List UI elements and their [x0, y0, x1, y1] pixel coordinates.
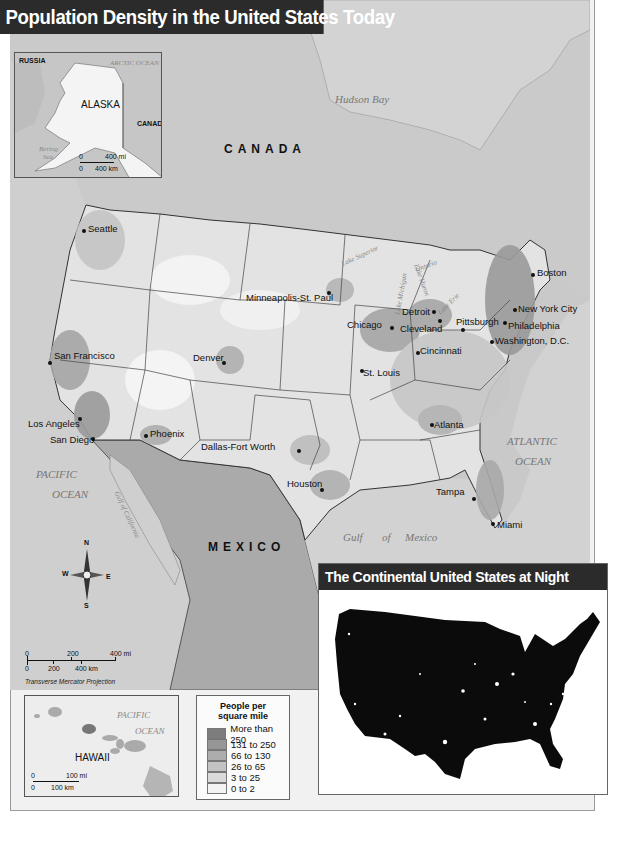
projection-label: Transverse Mercator Projection: [25, 678, 115, 685]
city-label-houston: Houston: [287, 478, 322, 489]
city-label-san-diego: San Diego: [50, 434, 94, 445]
water-label-pacific: PACIFIC: [36, 468, 77, 480]
city-dot-miami: [491, 522, 495, 526]
compass-n: N: [84, 539, 89, 546]
legend-label: 3 to 25: [231, 772, 260, 783]
alaska-sea-label: Sea: [43, 153, 53, 161]
city-label-detroit: Detroit: [402, 306, 430, 317]
city-label-minneapolis: Minneapolis-St. Paul: [246, 292, 333, 303]
city-label-boston: Boston: [537, 267, 567, 278]
city-dot-boston: [531, 273, 535, 277]
night-map-canvas: [325, 594, 603, 790]
city-dot-san-francisco: [48, 361, 52, 365]
scale-mi-200: 200: [67, 650, 79, 657]
legend-swatch: [207, 772, 227, 783]
legend-title-line1: People per: [197, 701, 289, 711]
hawaii-title: HAWAII: [75, 752, 110, 763]
legend-title: People per square mile: [197, 701, 289, 721]
country-label-canada: CANADA: [224, 142, 306, 156]
water-label-gulf: Gulf: [343, 531, 363, 543]
legend-label: 66 to 130: [231, 750, 271, 761]
city-label-washington: Washington, D.C.: [495, 335, 569, 346]
city-dot-new-york: [513, 308, 517, 312]
city-label-atlanta: Atlanta: [434, 419, 464, 430]
city-label-miami: Miami: [497, 519, 522, 530]
city-dot-dallas: [297, 449, 301, 453]
alaska-scale-km-0: 0: [79, 165, 83, 172]
scale-mi-400: 400 mi: [110, 650, 131, 657]
city-dot-seattle: [82, 229, 86, 233]
legend: People per square mile More than 250 131…: [196, 695, 290, 800]
legend-swatch: [207, 728, 226, 739]
main-scale-bar: 0 200 400 mi 0 200 400 km: [25, 650, 135, 680]
compass-s: S: [84, 602, 89, 609]
legend-label: 131 to 250: [231, 739, 276, 750]
city-label-cincinnati: Cincinnati: [420, 345, 462, 356]
legend-swatch: [207, 750, 227, 761]
alaska-scale-km-400: 400 km: [95, 165, 118, 172]
compass-rose: N S W E: [62, 545, 112, 605]
city-label-cleveland: Cleveland: [400, 323, 442, 334]
city-label-pittsburgh: Pittsburgh: [456, 316, 499, 327]
alaska-inset: RUSSIA ARCTIC OCEAN ALASKA CANADA Bering…: [14, 52, 162, 178]
city-dot-philadelphia: [503, 321, 507, 325]
country-label-mexico: MEXICO: [208, 540, 285, 554]
scale-km-0: 0: [25, 665, 29, 672]
alaska-bering-label: Bering: [39, 145, 58, 153]
city-label-san-francisco: San Francisco: [54, 350, 115, 361]
legend-title-line2: square mile: [197, 711, 289, 721]
compass-e: E: [106, 573, 111, 580]
water-label-hudson-bay: Hudson Bay: [335, 93, 389, 105]
hawaii-pacific-label: PACIFIC: [117, 710, 150, 720]
night-inset: The Continental United States at Night: [318, 563, 608, 795]
legend-item: 26 to 65: [207, 761, 265, 772]
water-label-mexico: Mexico: [405, 531, 437, 543]
compass-icon: [62, 545, 112, 605]
city-label-new-york: New York City: [518, 303, 577, 314]
city-dot-chicago: [390, 326, 394, 330]
city-label-phoenix: Phoenix: [150, 428, 184, 439]
alaska-scale-mi-0: 0: [79, 153, 83, 160]
legend-item: More than 250: [207, 728, 289, 739]
city-label-chicago: Chicago: [347, 319, 382, 330]
scale-km-400: 400 km: [75, 665, 98, 672]
hawaii-scale-mi-100: 100 mi: [66, 772, 87, 779]
city-dot-detroit: [432, 310, 436, 314]
night-inset-title: The Continental United States at Night: [319, 564, 607, 590]
legend-swatch: [207, 739, 227, 750]
city-label-st-louis: St. Louis: [363, 367, 400, 378]
city-label-tampa: Tampa: [436, 486, 465, 497]
compass-w: W: [62, 570, 69, 577]
legend-item: 0 to 2: [207, 783, 255, 794]
page-title: Population Density in the United States …: [0, 0, 324, 34]
water-label-atlantic-ocean: OCEAN: [515, 455, 551, 467]
water-label-pacific-ocean: OCEAN: [52, 488, 88, 500]
city-label-seattle: Seattle: [88, 223, 118, 234]
city-dot-pittsburgh: [461, 328, 465, 332]
hawaii-scale-km-0: 0: [31, 784, 35, 791]
city-label-denver: Denver: [193, 352, 224, 363]
alaska-russia-label: RUSSIA: [19, 57, 45, 64]
legend-item: 131 to 250: [207, 739, 276, 750]
alaska-title: ALASKA: [81, 99, 120, 110]
hawaii-scale-km-100: 100 km: [51, 784, 74, 791]
city-dot-tampa: [472, 497, 476, 501]
hawaii-inset: PACIFIC OCEAN HAWAII 0 100 mi 0 100 km: [24, 695, 179, 797]
alaska-canada-label: CANADA: [137, 120, 162, 127]
alaska-scale-mi-400: 400 mi: [105, 153, 126, 160]
alaska-arctic-label: ARCTIC OCEAN: [110, 59, 159, 67]
alaska-scale-bar: 0 400 mi 0 400 km: [75, 153, 125, 177]
hawaii-scale-bar: 0 100 mi 0 100 km: [31, 772, 91, 796]
legend-item: 66 to 130: [207, 750, 271, 761]
legend-swatch: [207, 783, 227, 794]
water-label-atlantic: ATLANTIC: [507, 435, 557, 447]
hawaii-ocean-label: OCEAN: [135, 726, 165, 736]
city-dot-phoenix: [144, 434, 148, 438]
hawaii-scale-mi-0: 0: [31, 772, 35, 779]
scale-km-200: 200: [48, 665, 60, 672]
legend-item: 3 to 25: [207, 772, 260, 783]
water-label-of: of: [382, 531, 391, 543]
city-label-dallas: Dallas-Fort Worth: [201, 441, 275, 452]
legend-label: 26 to 65: [231, 761, 265, 772]
city-dot-washington: [490, 340, 494, 344]
